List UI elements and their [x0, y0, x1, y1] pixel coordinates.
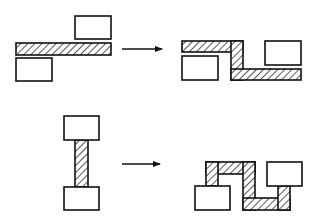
- hatched-wire-left-drop: [206, 162, 218, 186]
- block-block-lower-left: [16, 58, 52, 81]
- block-block-right: [265, 41, 301, 65]
- diagram-canvas: [0, 0, 318, 222]
- block-block-bottom: [64, 187, 99, 210]
- routing-diagram: [0, 0, 318, 222]
- row-vertical-connection: [64, 116, 302, 210]
- hatched-wire-bottom-segment: [231, 69, 301, 80]
- after-configuration: [182, 41, 301, 80]
- block-block-left: [195, 186, 230, 210]
- block-block-left: [182, 56, 218, 80]
- row-horizontal-connection: [16, 16, 301, 81]
- hatched-wire-stem: [75, 140, 88, 187]
- hatched-wire-right-rise: [278, 186, 290, 210]
- after-configuration: [195, 162, 302, 210]
- before-configuration: [64, 116, 99, 210]
- block-block-top: [64, 116, 99, 140]
- hatched-wire-bar: [16, 43, 111, 55]
- diagram-layer: [16, 16, 302, 210]
- before-configuration: [16, 16, 111, 81]
- block-block-upper-right: [75, 16, 111, 39]
- block-block-right: [267, 162, 302, 186]
